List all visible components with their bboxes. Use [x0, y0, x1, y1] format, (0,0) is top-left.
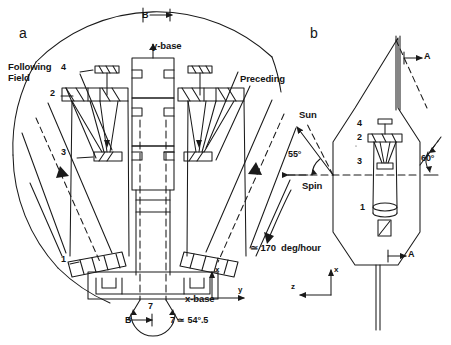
- section-marker-b-bottom-label: B: [125, 316, 131, 325]
- section-marker-a-upper: [404, 52, 422, 64]
- axis-z-label-panel-b: z: [291, 283, 295, 291]
- panel-b-component-4: 4: [357, 119, 362, 128]
- following-field-label-line2: Field: [8, 73, 30, 83]
- preceding-label: Preceding: [240, 74, 285, 84]
- panel-a-label: a: [19, 26, 27, 41]
- axis-x-label-panel-a: x: [215, 266, 219, 274]
- panel-a-component-3: 3: [61, 148, 66, 157]
- x-base-label: x-base: [185, 294, 215, 304]
- sun-direction-indicator: [297, 127, 333, 175]
- y-base-structure: [132, 44, 174, 275]
- figure-canvas: a Following Field Preceding y-base x-bas…: [0, 0, 451, 345]
- panel-a-component-1: 1: [61, 255, 66, 264]
- panel-b-component-3: 3: [357, 157, 362, 166]
- rotation-rate-arrow: [264, 190, 291, 244]
- panel-a-component-4: 4: [61, 63, 66, 72]
- section-marker-a-lower: [388, 250, 406, 262]
- preceding-field-rays: [206, 72, 296, 256]
- angle-seven-value: 7 ≃ 54°.5: [170, 316, 208, 325]
- section-line-a-dashed: [396, 40, 427, 108]
- telescope-right-assembly: [178, 66, 246, 277]
- spacecraft-body-outline-b: [333, 38, 420, 265]
- sun-ray-dashed: [306, 122, 333, 175]
- following-field-label-line1: Following: [8, 62, 51, 72]
- boom-lower: [376, 265, 380, 330]
- following-field-dashed-ray: [36, 118, 100, 262]
- panel-b-component-1: 1: [360, 203, 365, 212]
- section-line-b-bottom: [129, 314, 152, 326]
- diagram-vector-layer: [0, 0, 451, 345]
- axes-zx-panel-b: [300, 270, 331, 295]
- preceding-field-dashed-ray: [218, 114, 284, 262]
- rotation-rate-label: ≃ 170 deg/hour: [250, 243, 321, 253]
- section-marker-a-upper-label: A: [424, 52, 430, 61]
- angle-seven-symbol: 7: [148, 302, 153, 311]
- spin-label: Spin: [302, 181, 322, 191]
- section-marker-b-top-label: B: [142, 11, 148, 20]
- sun-label: Sun: [299, 110, 317, 120]
- panel-b-label: b: [310, 26, 318, 41]
- telescope-left-assembly: [62, 66, 129, 277]
- boresight-axes-dashed: [140, 120, 166, 300]
- axis-x-label-panel-b: x: [334, 266, 338, 274]
- right-angle-label: 60°: [421, 154, 434, 163]
- panel-a-component-2: 2: [50, 89, 55, 98]
- sun-angle-label: 55°: [288, 150, 301, 159]
- section-marker-a-lower-label: A: [408, 250, 414, 259]
- instrument-stack-b: [368, 119, 402, 236]
- y-base-label: y-base: [152, 41, 182, 51]
- panel-b-component-2: 2: [357, 133, 362, 142]
- axis-y-label-panel-a: y: [238, 286, 242, 294]
